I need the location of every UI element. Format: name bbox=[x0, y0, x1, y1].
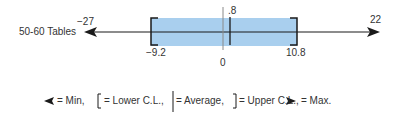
max-value-label: 22 bbox=[370, 15, 381, 25]
legend-min-text: = Min, bbox=[57, 96, 85, 106]
min-value-label: −27 bbox=[77, 17, 94, 27]
row-label: 50-60 Tables bbox=[19, 27, 76, 37]
lower-cl-value-label: −9.2 bbox=[146, 48, 166, 58]
legend-max-text: = Max. bbox=[301, 96, 331, 106]
legend-upper-cl-text: = Upper C.L., bbox=[239, 96, 299, 106]
legend-lower-cl-text: = Lower C.L., bbox=[104, 96, 164, 106]
upper-cl-value-label: 10.8 bbox=[286, 48, 305, 58]
legend: = Min, = Lower C.L., = Average, = Upper … bbox=[0, 92, 395, 110]
legend-average-text: = Average, bbox=[176, 96, 224, 106]
zero-label: 0 bbox=[220, 58, 226, 68]
average-value-label: .8 bbox=[228, 6, 236, 16]
